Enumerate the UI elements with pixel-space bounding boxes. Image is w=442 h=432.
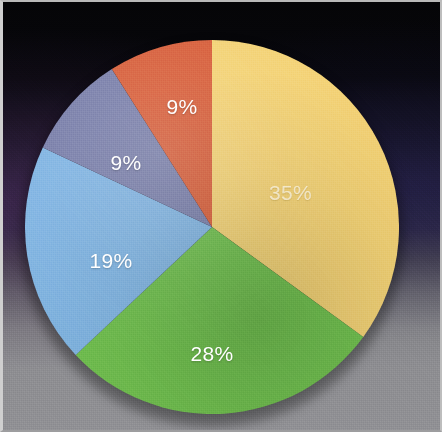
pie-slice-label-red-orange: 9% [167,95,198,119]
pie-chart: 35%28%19%9%9% [25,40,399,414]
pie-slice-label-slate-purple: 9% [110,151,141,175]
pie-slice-label-yellow: 35% [269,181,312,205]
pie-chart-scene: 35%28%19%9%9% [0,0,442,432]
pie-slice-label-light-blue: 19% [89,249,132,273]
pie-slice-label-green: 28% [190,342,233,366]
